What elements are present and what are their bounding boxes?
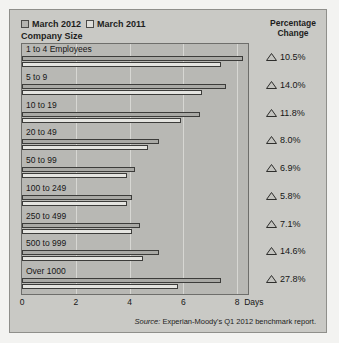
percentage-change-value: 11.8% bbox=[280, 108, 305, 118]
legend-label-march-2011: March 2011 bbox=[97, 19, 146, 29]
percentage-change-value: 14.0% bbox=[280, 80, 306, 90]
category-label: 250 to 499 bbox=[26, 211, 66, 221]
category-label: 5 to 9 bbox=[26, 72, 47, 82]
bar-march-2011 bbox=[22, 90, 202, 95]
bar-march-2012 bbox=[22, 195, 132, 200]
category-label: 1 to 4 Employees bbox=[26, 44, 92, 54]
category-row: 100 to 249 bbox=[22, 183, 248, 211]
bar-march-2011 bbox=[22, 201, 127, 206]
category-label: Over 1000 bbox=[26, 266, 66, 276]
category-label: 100 to 249 bbox=[26, 183, 66, 193]
percentage-change-value: 14.6% bbox=[280, 246, 306, 256]
x-axis: 02468Days bbox=[21, 297, 266, 309]
source-prefix: Source: bbox=[134, 317, 160, 326]
x-axis-tick: 8 bbox=[235, 297, 240, 307]
source-note: Source: Experian-Moody's Q1 2012 benchma… bbox=[134, 317, 316, 326]
legend-item-march-2011: March 2011 bbox=[86, 19, 146, 29]
bar-march-2012 bbox=[22, 223, 140, 228]
triangle-up-icon bbox=[266, 109, 277, 117]
percentage-change-column: 10.5%14.0%11.8%8.0%6.9%5.8%7.1%14.6%27.8… bbox=[260, 43, 326, 295]
category-row: 1 to 4 Employees bbox=[22, 44, 248, 72]
x-axis-tick: 6 bbox=[181, 297, 186, 307]
legend-label-march-2012: March 2012 bbox=[32, 19, 81, 29]
bar-march-2011 bbox=[22, 256, 143, 261]
company-size-header: Company Size bbox=[21, 31, 83, 41]
percentage-change-header-line2: Change bbox=[262, 28, 324, 38]
percentage-change-value: 7.1% bbox=[280, 219, 301, 229]
triangle-up-icon bbox=[266, 81, 277, 89]
percentage-change-value: 27.8% bbox=[280, 274, 306, 284]
category-label: 500 to 999 bbox=[26, 238, 66, 248]
bar-march-2011 bbox=[22, 145, 148, 150]
percentage-change-header-line1: Percentage bbox=[262, 18, 324, 28]
triangle-up-icon bbox=[266, 164, 277, 172]
percentage-change-row: 11.8% bbox=[260, 107, 326, 119]
source-text: Experian-Moody's Q1 2012 benchmark repor… bbox=[162, 317, 316, 326]
bar-march-2012 bbox=[22, 139, 159, 144]
percentage-change-row: 27.8% bbox=[260, 273, 326, 285]
percentage-change-row: 6.9% bbox=[260, 162, 326, 174]
bar-march-2011 bbox=[22, 173, 127, 178]
category-label: 10 to 19 bbox=[26, 100, 57, 110]
x-axis-tick: 2 bbox=[73, 297, 78, 307]
bar-march-2011 bbox=[22, 284, 178, 289]
plot-area: 1 to 4 Employees5 to 910 to 1920 to 4950… bbox=[21, 43, 249, 295]
category-row: 5 to 9 bbox=[22, 72, 248, 100]
percentage-change-value: 10.5% bbox=[280, 52, 306, 62]
bar-march-2012 bbox=[22, 250, 159, 255]
bar-march-2012 bbox=[22, 112, 200, 117]
category-label: 20 to 49 bbox=[26, 127, 57, 137]
category-row: 10 to 19 bbox=[22, 100, 248, 128]
percentage-change-header: Percentage Change bbox=[262, 18, 324, 38]
percentage-change-value: 6.9% bbox=[280, 163, 301, 173]
category-row: Over 1000 bbox=[22, 266, 248, 294]
category-row: 50 to 99 bbox=[22, 155, 248, 183]
x-axis-unit-label: Days bbox=[244, 297, 263, 307]
percentage-change-row: 14.6% bbox=[260, 245, 326, 257]
triangle-up-icon bbox=[266, 192, 277, 200]
bar-march-2012 bbox=[22, 84, 226, 89]
bar-march-2012 bbox=[22, 278, 221, 283]
x-axis-tick: 0 bbox=[20, 297, 25, 307]
triangle-up-icon bbox=[266, 275, 277, 283]
triangle-up-icon bbox=[266, 136, 277, 144]
bar-march-2011 bbox=[22, 118, 181, 123]
category-row: 250 to 499 bbox=[22, 211, 248, 239]
legend-swatch-march-2011 bbox=[86, 20, 94, 28]
percentage-change-row: 10.5% bbox=[260, 51, 326, 63]
legend-swatch-march-2012 bbox=[21, 20, 29, 28]
percentage-change-value: 8.0% bbox=[280, 135, 301, 145]
percentage-change-row: 14.0% bbox=[260, 79, 326, 91]
x-axis-tick: 4 bbox=[127, 297, 132, 307]
triangle-up-icon bbox=[266, 220, 277, 228]
chart-legend: March 2012 March 2011 bbox=[21, 18, 146, 30]
legend-item-march-2012: March 2012 bbox=[21, 19, 81, 29]
category-row: 500 to 999 bbox=[22, 238, 248, 266]
percentage-change-row: 5.8% bbox=[260, 190, 326, 202]
percentage-change-row: 7.1% bbox=[260, 218, 326, 230]
bar-march-2012 bbox=[22, 56, 243, 61]
bar-march-2011 bbox=[22, 62, 221, 67]
bar-march-2012 bbox=[22, 167, 135, 172]
chart-panel: March 2012 March 2011 Company Size Perce… bbox=[9, 9, 327, 333]
bar-march-2011 bbox=[22, 229, 132, 234]
percentage-change-value: 5.8% bbox=[280, 191, 301, 201]
triangle-up-icon bbox=[266, 247, 277, 255]
triangle-up-icon bbox=[266, 53, 277, 61]
category-label: 50 to 99 bbox=[26, 155, 57, 165]
category-row: 20 to 49 bbox=[22, 127, 248, 155]
percentage-change-row: 8.0% bbox=[260, 134, 326, 146]
